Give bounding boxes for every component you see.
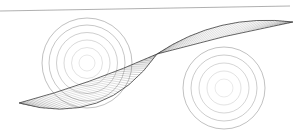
figure-container [0,0,298,134]
line-art-figure [0,0,298,134]
figure-background [0,0,298,134]
